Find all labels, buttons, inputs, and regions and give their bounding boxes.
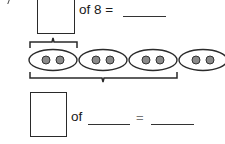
bottom-of-label: of [71,110,82,124]
bottom-answer-blank[interactable] [151,124,194,125]
bottom-equals-sign: = [136,111,144,124]
bottom-fraction-box[interactable] [30,92,67,137]
group-ellipse-3 [129,50,177,71]
bottom-brace [30,72,177,82]
bottom-whole-blank[interactable] [88,124,130,125]
group-ellipse-4 [179,50,225,71]
group-ellipse-2 [79,50,127,71]
group-ellipse-1 [29,50,77,71]
top-brace [30,38,77,48]
